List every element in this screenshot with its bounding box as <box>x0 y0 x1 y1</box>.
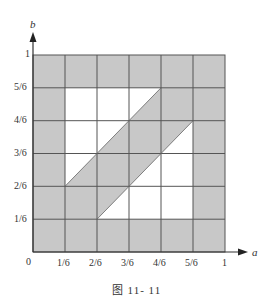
y-tick-1: 1 <box>25 48 30 59</box>
x-tick-3-6: 3/6 <box>121 257 134 268</box>
x-tick-4-6: 4/6 <box>153 257 166 268</box>
y-tick-4-6: 4/6 <box>14 114 27 125</box>
y-axis-label: b <box>30 18 36 30</box>
unit-square-diagram <box>0 0 273 307</box>
x-axis-arrow-icon <box>238 249 248 256</box>
x-tick-2-6: 2/6 <box>89 257 102 268</box>
x-tick-1: 1 <box>222 257 227 268</box>
y-tick-3-6: 3/6 <box>14 147 27 158</box>
x-tick-1-6: 1/6 <box>57 257 70 268</box>
y-tick-2-6: 2/6 <box>14 180 27 191</box>
y-axis-arrow-icon <box>30 32 37 42</box>
y-tick-1-6: 1/6 <box>14 213 27 224</box>
figure-caption: 图 11- 11 <box>0 281 273 297</box>
origin-label: 0 <box>26 256 31 267</box>
x-tick-5-6: 5/6 <box>185 257 198 268</box>
y-tick-5-6: 5/6 <box>14 81 27 92</box>
x-axis-label: a <box>252 246 258 258</box>
